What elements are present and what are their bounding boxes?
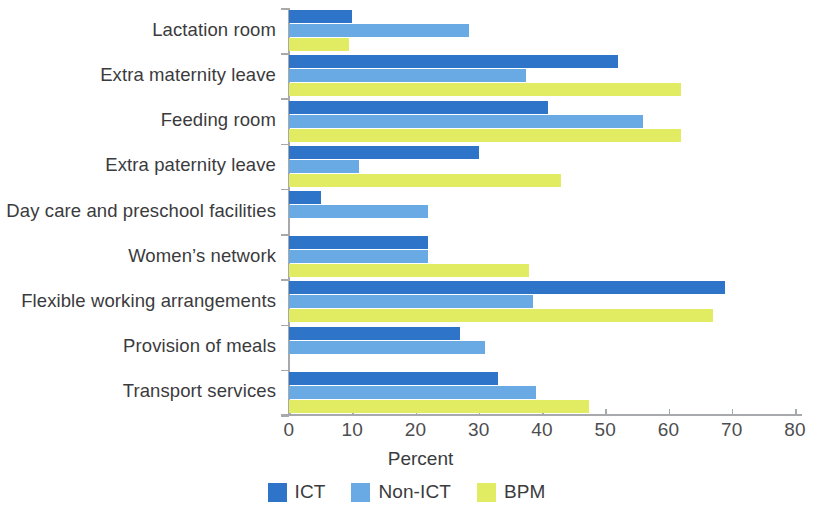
horizontal-bar-chart: Lactation roomExtra maternity leaveFeedi… xyxy=(0,0,813,509)
category-axis-labels: Lactation roomExtra maternity leaveFeedi… xyxy=(0,8,276,415)
category-label-0: Lactation room xyxy=(0,19,276,41)
legend-label-2: BPM xyxy=(504,481,545,503)
chart-legend: ICTNon-ICTBPM xyxy=(0,481,813,503)
bar-non-ict-5 xyxy=(289,250,428,263)
bar-non-ict-3 xyxy=(289,160,359,173)
bar-bpm-8 xyxy=(289,400,589,413)
x-tick-label-70: 70 xyxy=(702,419,762,441)
y-tick-end xyxy=(281,415,289,417)
x-axis-title-text: Percent xyxy=(388,448,453,469)
legend-swatch-icon-0 xyxy=(268,483,287,502)
x-tick-label-20: 20 xyxy=(386,419,446,441)
x-tick-label-60: 60 xyxy=(639,419,699,441)
y-tick-1 xyxy=(281,53,289,55)
x-tick-label-10: 10 xyxy=(322,419,382,441)
bar-non-ict-4 xyxy=(289,205,428,218)
category-label-8: Transport services xyxy=(0,380,276,402)
x-axis-title: Percent xyxy=(0,448,813,470)
bar-ict-7 xyxy=(289,327,460,340)
bar-non-ict-1 xyxy=(289,69,526,82)
legend-label-1: Non-ICT xyxy=(378,481,451,503)
x-tick-label-0: 0 xyxy=(259,419,319,441)
bar-non-ict-0 xyxy=(289,24,469,37)
bar-ict-2 xyxy=(289,101,548,114)
legend-item-non-ict: Non-ICT xyxy=(351,481,451,503)
x-tick-80 xyxy=(795,409,797,415)
y-tick-0 xyxy=(281,8,289,10)
bar-bpm-1 xyxy=(289,83,681,96)
bar-ict-6 xyxy=(289,281,725,294)
y-tick-2 xyxy=(281,98,289,100)
y-tick-8 xyxy=(281,370,289,372)
bar-non-ict-7 xyxy=(289,341,485,354)
bar-ict-5 xyxy=(289,236,428,249)
legend-item-ict: ICT xyxy=(268,481,326,503)
bar-non-ict-8 xyxy=(289,386,536,399)
bar-non-ict-6 xyxy=(289,295,533,308)
category-label-4: Day care and preschool facilities xyxy=(0,200,276,222)
bar-ict-0 xyxy=(289,10,352,23)
y-tick-3 xyxy=(281,144,289,146)
category-label-7: Provision of meals xyxy=(0,335,276,357)
category-label-2: Feeding room xyxy=(0,109,276,131)
bar-ict-1 xyxy=(289,55,618,68)
y-tick-7 xyxy=(281,325,289,327)
legend-swatch-icon-1 xyxy=(351,483,370,502)
x-tick-label-30: 30 xyxy=(449,419,509,441)
bar-ict-8 xyxy=(289,372,498,385)
bar-bpm-6 xyxy=(289,309,713,322)
bar-ict-4 xyxy=(289,191,321,204)
legend-item-bpm: BPM xyxy=(477,481,545,503)
y-tick-6 xyxy=(281,279,289,281)
bar-bpm-5 xyxy=(289,264,529,277)
category-label-1: Extra maternity leave xyxy=(0,64,276,86)
bar-bpm-3 xyxy=(289,174,561,187)
bar-bpm-2 xyxy=(289,129,681,142)
bar-ict-3 xyxy=(289,146,479,159)
x-tick-label-80: 80 xyxy=(765,419,813,441)
category-label-5: Women’s network xyxy=(0,245,276,267)
y-tick-4 xyxy=(281,189,289,191)
legend-swatch-icon-2 xyxy=(477,483,496,502)
bar-non-ict-2 xyxy=(289,115,643,128)
plot-area xyxy=(289,8,795,415)
bar-bpm-0 xyxy=(289,38,349,51)
legend-label-0: ICT xyxy=(295,481,326,503)
y-tick-5 xyxy=(281,234,289,236)
x-tick-label-50: 50 xyxy=(575,419,635,441)
category-label-6: Flexible working arrangements xyxy=(0,290,276,312)
category-label-3: Extra paternity leave xyxy=(0,154,276,176)
x-tick-label-40: 40 xyxy=(512,419,572,441)
